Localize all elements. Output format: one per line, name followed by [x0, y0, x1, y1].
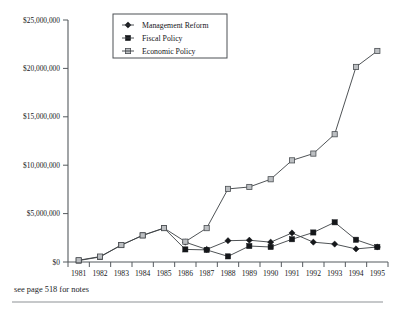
footnote-text: see page 518 for notes	[14, 285, 89, 294]
y-axis-tick-label: $15,000,000	[23, 112, 60, 121]
data-point-square	[311, 230, 316, 235]
x-axis-tick-label: 1987	[199, 269, 214, 278]
data-point-open-square	[140, 233, 145, 238]
figure-footer: see page 518 for notes	[12, 285, 383, 302]
series-polyline	[79, 51, 378, 260]
data-point-open-square	[204, 226, 209, 231]
data-point-open-square	[97, 254, 102, 259]
chart-legend: Management ReformFiscal PolicyEconomic P…	[113, 14, 227, 58]
data-point-square	[183, 247, 188, 252]
x-axis-tick-label: 1985	[156, 269, 171, 278]
data-point-square	[289, 237, 294, 242]
data-point-open-square	[375, 48, 380, 53]
x-axis-tick-label: 1990	[263, 269, 278, 278]
data-point-open-square	[76, 258, 81, 263]
data-point-square	[247, 243, 252, 248]
x-axis: 1981198219831984198519861987198819891990…	[68, 262, 388, 278]
x-axis-tick-label: 1992	[306, 269, 321, 278]
data-point-open-square	[119, 242, 124, 247]
x-axis-tick-label: 1993	[327, 269, 342, 278]
y-axis-tick-label: $0	[53, 258, 61, 267]
y-axis: $0$5,000,000$10,000,000$15,000,000$20,00…	[23, 16, 68, 267]
x-axis-tick-label: 1989	[242, 269, 257, 278]
data-point-square	[332, 220, 337, 225]
x-axis-tick-label: 1982	[92, 269, 107, 278]
data-point-open-square	[289, 158, 294, 163]
data-point-square	[375, 244, 380, 249]
data-point-open-square	[332, 132, 337, 137]
data-point-open-square	[161, 226, 166, 231]
data-point-open-square	[225, 186, 230, 191]
series-management-reform	[182, 230, 380, 253]
y-axis-tick-label: $5,000,000	[27, 209, 61, 218]
legend-item-label: Management Reform	[142, 21, 208, 30]
y-axis-tick-label: $25,000,000	[23, 16, 60, 25]
x-axis-tick-label: 1984	[135, 269, 150, 278]
series-polyline	[185, 233, 377, 249]
line-chart-canvas: $0$5,000,000$10,000,000$15,000,000$20,00…	[0, 0, 395, 312]
x-axis-tick-label: 1988	[220, 269, 235, 278]
x-axis-tick-label: 1981	[71, 269, 86, 278]
legend-item-label: Economic Policy	[142, 47, 196, 56]
data-point-square	[204, 247, 209, 252]
data-point-open-square	[268, 177, 273, 182]
data-point-open-square	[311, 151, 316, 156]
legend-item-label: Fiscal Policy	[142, 34, 183, 43]
data-point-square	[225, 254, 230, 259]
data-point-diamond	[289, 230, 295, 236]
x-axis-tick-label: 1983	[114, 269, 129, 278]
x-axis-tick-label: 1994	[348, 269, 363, 278]
data-point-diamond	[225, 238, 231, 244]
title-remnant	[214, 0, 216, 6]
data-point-square	[353, 237, 358, 242]
series-economic-policy	[76, 48, 380, 262]
x-axis-tick-label: 1991	[284, 269, 299, 278]
data-point-diamond	[353, 246, 359, 252]
data-point-open-square	[353, 64, 358, 69]
cropped-title-remnant	[214, 0, 216, 6]
x-axis-tick-label: 1986	[178, 269, 193, 278]
x-axis-tick-label: 1995	[370, 269, 385, 278]
data-point-diamond	[332, 241, 338, 247]
y-axis-tick-label: $20,000,000	[23, 64, 60, 73]
series-layer	[76, 48, 380, 263]
chart-figure: $0$5,000,000$10,000,000$15,000,000$20,00…	[0, 0, 395, 312]
data-point-open-square	[247, 184, 252, 189]
y-axis-tick-label: $10,000,000	[23, 161, 60, 170]
data-point-diamond	[310, 239, 316, 245]
data-point-diamond	[246, 237, 252, 243]
data-point-square	[268, 244, 273, 249]
data-point-open-square	[183, 239, 188, 244]
